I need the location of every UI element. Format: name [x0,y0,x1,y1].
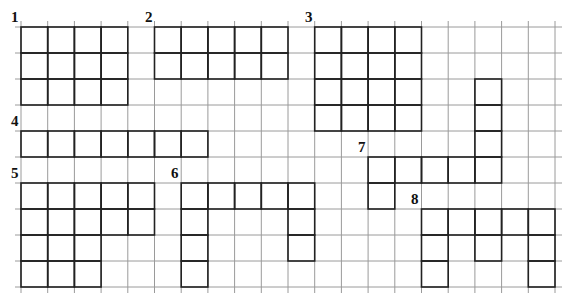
shape-cell [101,53,128,79]
shape-cell [368,79,395,105]
shape-cell [21,79,48,105]
shape-cell [315,79,342,105]
shape-cell [288,183,315,209]
shape-cell [48,27,75,53]
shape-cell [528,209,555,235]
shape-label-4: 4 [11,113,19,129]
shape-cell [475,79,502,105]
shape-cell [288,235,315,261]
shape-label-6: 6 [171,165,179,181]
shape-cell [74,235,101,261]
shape-4 [21,131,208,157]
shape-cell [502,209,529,235]
shape-cell [368,183,395,209]
shape-cell [395,105,422,131]
shape-cell [21,261,48,287]
shape-cell [528,261,555,287]
shape-cell [181,27,208,53]
shape-cell [48,131,75,157]
shape-cell [74,131,101,157]
shape-cell [235,27,262,53]
shape-cell [422,235,449,261]
shape-label-7: 7 [358,139,366,155]
shape-cell [475,131,502,157]
shape-cell [21,209,48,235]
shape-5 [21,183,155,287]
shape-cell [341,27,368,53]
shape-cell [181,131,208,157]
labels-layer: 12345678 [11,9,419,207]
shape-cell [395,27,422,53]
shape-cell [368,105,395,131]
shape-cell [74,27,101,53]
shape-label-3: 3 [305,9,313,25]
shape-cell [48,235,75,261]
shape-cell [74,53,101,79]
shape-cell [101,209,128,235]
shape-cell [181,209,208,235]
shape-cell [422,261,449,287]
shape-cell [422,209,449,235]
shape-cell [155,131,182,157]
shape-cell [101,131,128,157]
shape-8 [422,209,556,287]
shape-cell [448,157,475,183]
shape-cell [341,79,368,105]
shape-cell [74,261,101,287]
shape-label-2: 2 [145,9,153,25]
shape-cell [315,53,342,79]
shape-cell [101,183,128,209]
shape-cell [48,183,75,209]
shape-cell [48,79,75,105]
shape-cell [368,157,395,183]
shape-3 [315,27,422,131]
shape-cell [341,105,368,131]
shape-cell [128,183,155,209]
shape-cell [261,27,288,53]
shape-cell [181,53,208,79]
shape-7 [368,79,502,209]
shape-2 [155,27,289,79]
shape-cell [21,183,48,209]
shape-cell [21,131,48,157]
shape-cell [21,27,48,53]
shape-cell [341,53,368,79]
shape-cell [155,53,182,79]
shape-cell [475,105,502,131]
shape-cell [208,53,235,79]
shape-cell [261,183,288,209]
shape-cell [395,157,422,183]
shape-cell [21,235,48,261]
shape-cell [208,183,235,209]
shape-cell [475,209,502,235]
shape-cell [422,157,449,183]
shape-cell [475,157,502,183]
shape-cell [101,79,128,105]
shape-cell [128,131,155,157]
shape-cell [21,53,48,79]
shape-1 [21,27,128,105]
grid-figure: 12345678 [0,0,569,297]
shape-cell [48,53,75,79]
shape-cell [395,53,422,79]
shape-cell [368,27,395,53]
shape-cell [261,53,288,79]
shape-cell [368,53,395,79]
shape-cell [155,27,182,53]
shape-cell [475,235,502,261]
shape-cell [181,183,208,209]
shape-cell [181,261,208,287]
shape-cell [235,183,262,209]
shape-cell [48,209,75,235]
shape-cell [74,183,101,209]
shape-cell [235,53,262,79]
shape-cell [208,27,235,53]
shape-cell [315,27,342,53]
shape-cell [74,209,101,235]
shape-cell [528,235,555,261]
shape-cell [48,261,75,287]
shape-cell [448,209,475,235]
shape-label-5: 5 [11,165,19,181]
shape-cell [181,235,208,261]
shape-cell [101,27,128,53]
